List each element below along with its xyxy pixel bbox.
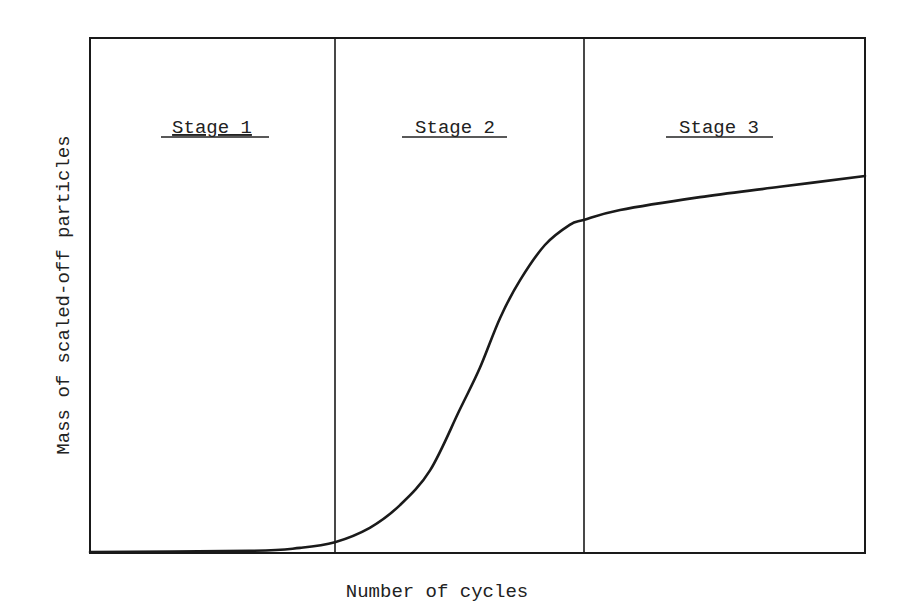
mass-curve bbox=[90, 176, 865, 552]
stage-2-label: Stage 2 bbox=[415, 117, 495, 139]
stage-1-label: Stage 1 bbox=[172, 117, 252, 139]
stage-3-label: Stage 3 bbox=[679, 117, 759, 139]
x-axis-label: Number of cycles bbox=[346, 581, 528, 603]
stage-chart: Stage 1 Stage 2 Stage 3 Number of cycles… bbox=[0, 0, 913, 613]
plot-frame bbox=[90, 38, 865, 553]
y-axis-label: Mass of scaled-off particles bbox=[53, 135, 75, 454]
